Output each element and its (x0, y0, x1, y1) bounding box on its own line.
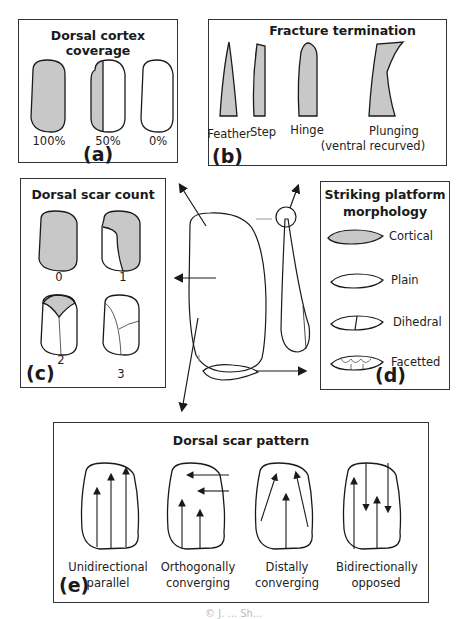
panel-d-letter: (d) (375, 364, 406, 386)
platform-label-cortical: Cortical (389, 229, 433, 243)
pattern-label-orthogonal-2: converging (158, 576, 238, 590)
pattern-label-distal-2: converging (247, 576, 327, 590)
panel-e-letter: (e) (59, 574, 89, 596)
platform-label-plain: Plain (391, 273, 419, 287)
pattern-label-distal-1: Distally (247, 560, 327, 574)
panel-dorsal-scar-pattern: Dorsal scar pattern (53, 422, 429, 603)
pattern-label-bidirectional-2: opposed (336, 576, 416, 590)
panel-striking-platform-morphology: Striking platform morphology Cortical Pl… (320, 181, 450, 390)
pattern-label-unidirectional-1: Unidirectional (68, 560, 148, 574)
pattern-label-orthogonal-1: Orthogonally (158, 560, 238, 574)
pattern-label-bidirectional-1: Bidirectionally (336, 560, 416, 574)
watermark: © J. ... Sh... (205, 608, 262, 619)
platform-label-dihedral: Dihedral (393, 315, 442, 329)
